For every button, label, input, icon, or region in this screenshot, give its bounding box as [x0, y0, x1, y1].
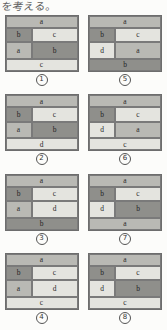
figure-8-region-left-lower: d	[89, 280, 115, 297]
figure-5-left-column: bd	[89, 28, 115, 59]
figure-1: abacbc1	[0, 13, 83, 92]
figure-6-number: 6	[119, 153, 131, 165]
figure-3-middle-band: bacd	[6, 187, 78, 218]
figure-8-number: 8	[119, 312, 131, 324]
figure-4-right-column: cd	[32, 266, 78, 297]
figure-1-number: 1	[36, 74, 48, 86]
figure-grid: abacbc1abdcab5abacbd2abdcac6abacdb3abdcb…	[0, 13, 167, 330]
figure-8-region-right-upper: c	[115, 266, 161, 280]
figure-2-rectangle: abacbd	[5, 94, 79, 151]
figure-7-region-right-upper: c	[115, 187, 161, 201]
figure-8-middle-band: bdcb	[89, 266, 161, 297]
figure-3-region-top: a	[6, 175, 78, 187]
figure-5-region-top: a	[89, 16, 161, 28]
figure-6-right-column: ca	[115, 107, 161, 138]
figure-5-rectangle: abdcab	[88, 15, 162, 72]
figure-7-right-column: cb	[115, 187, 161, 218]
figure-5-right-column: ca	[115, 28, 161, 59]
header-japanese-text: を考える。	[0, 0, 57, 12]
figure-1-region-top: a	[6, 16, 78, 28]
figure-8-left-column: bd	[89, 266, 115, 297]
figure-2-region-right-lower: b	[32, 122, 78, 139]
figure-6-region-left-lower: d	[89, 122, 115, 139]
figure-4-region-left-upper: b	[6, 266, 32, 280]
figure-7-region-left-upper: b	[89, 187, 115, 201]
figure-7-rectangle: abdcba	[88, 174, 162, 231]
figure-4-middle-band: bacd	[6, 266, 78, 297]
figure-4-region-bottom: c	[6, 297, 78, 309]
figure-6-region-left-upper: b	[89, 107, 115, 121]
figure-3-region-left-upper: b	[6, 187, 32, 201]
figure-3-rectangle: abacdb	[5, 174, 79, 231]
figure-7-region-right-lower: b	[115, 201, 161, 218]
figure-5-region-right-lower: a	[115, 42, 161, 59]
figure-6-label: 6	[119, 153, 131, 165]
figure-5-label: 5	[119, 74, 131, 86]
figure-5-region-bottom: b	[89, 59, 161, 71]
figure-1-left-column: ba	[6, 28, 32, 59]
figure-8-rectangle: abdcbc	[88, 253, 162, 310]
figure-3-region-right-lower: d	[32, 201, 78, 218]
figure-2-region-left-upper: b	[6, 107, 32, 121]
figure-8-right-column: cb	[115, 266, 161, 297]
figure-4-region-right-lower: d	[32, 280, 78, 297]
figure-5-number: 5	[119, 74, 131, 86]
figure-8-region-left-upper: b	[89, 266, 115, 280]
figure-7-region-bottom: a	[89, 218, 161, 230]
figure-1-rectangle: abacbc	[5, 15, 79, 72]
figure-2-number: 2	[36, 153, 48, 165]
figure-2-label: 2	[36, 153, 48, 165]
figure-6-region-right-lower: a	[115, 122, 161, 139]
figure-2: abacbd2	[0, 92, 83, 171]
figure-1-region-bottom: c	[6, 59, 78, 71]
figure-5-region-right-upper: c	[115, 28, 161, 42]
figure-6: abdcac6	[83, 92, 167, 171]
figure-6-rectangle: abdcac	[88, 94, 162, 151]
figure-3-number: 3	[36, 233, 48, 245]
figure-1-right-column: cb	[32, 28, 78, 59]
figure-3-left-column: ba	[6, 187, 32, 218]
figure-6-left-column: bd	[89, 107, 115, 138]
figure-6-region-top: a	[89, 95, 161, 107]
figure-4-region-left-lower: a	[6, 280, 32, 297]
figure-1-region-right-lower: b	[32, 42, 78, 59]
figure-4-left-column: ba	[6, 266, 32, 297]
figure-8-region-bottom: c	[89, 297, 161, 309]
figure-4-number: 4	[36, 312, 48, 324]
figure-3: abacdb3	[0, 172, 83, 251]
figure-2-left-column: ba	[6, 107, 32, 138]
figure-2-region-bottom: d	[6, 138, 78, 150]
figure-1-region-right-upper: c	[32, 28, 78, 42]
figure-7: abdcba7	[83, 172, 167, 251]
figure-7-left-column: bd	[89, 187, 115, 218]
figure-7-region-top: a	[89, 175, 161, 187]
figure-8-label: 8	[119, 312, 131, 324]
figure-2-region-top: a	[6, 95, 78, 107]
figure-4-rectangle: abacdc	[5, 253, 79, 310]
figure-3-region-right-upper: c	[32, 187, 78, 201]
figure-6-middle-band: bdca	[89, 107, 161, 138]
figure-5-region-left-upper: b	[89, 28, 115, 42]
figure-4-region-right-upper: c	[32, 266, 78, 280]
figure-8-region-right-lower: b	[115, 280, 161, 297]
figure-3-label: 3	[36, 233, 48, 245]
figure-5: abdcab5	[83, 13, 167, 92]
figure-3-right-column: cd	[32, 187, 78, 218]
figure-2-middle-band: bacb	[6, 107, 78, 138]
figure-2-region-right-upper: c	[32, 107, 78, 121]
figure-8-region-top: a	[89, 254, 161, 266]
figure-4-region-top: a	[6, 254, 78, 266]
figure-6-region-bottom: c	[89, 138, 161, 150]
figure-1-region-left-upper: b	[6, 28, 32, 42]
figure-3-region-left-lower: a	[6, 201, 32, 218]
figure-5-middle-band: bdca	[89, 28, 161, 59]
figure-7-region-left-lower: d	[89, 201, 115, 218]
figure-7-label: 7	[119, 233, 131, 245]
figure-5-region-left-lower: d	[89, 42, 115, 59]
figure-2-right-column: cb	[32, 107, 78, 138]
figure-7-number: 7	[119, 233, 131, 245]
figure-2-region-left-lower: a	[6, 122, 32, 139]
figure-4-label: 4	[36, 312, 48, 324]
figure-6-region-right-upper: c	[115, 107, 161, 121]
figure-8: abdcbc8	[83, 251, 167, 330]
